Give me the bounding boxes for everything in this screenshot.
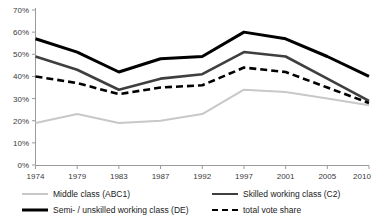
chart-legend: Middle class (ABC1) Skilled working clas… xyxy=(0,186,374,221)
series-line-skilled-c2 xyxy=(36,52,370,101)
legend-swatch-semi-unskilled-de xyxy=(22,206,48,214)
chart-canvas: 0%10%20%30%40%50%60%70% 1974197919831987… xyxy=(0,0,374,185)
legend-label-total-vote-share: total vote share xyxy=(243,206,301,215)
series-line-semi-unskilled-de xyxy=(36,32,370,76)
y-axis-tick-label: 60% xyxy=(13,28,29,37)
x-axis-tick-label: 1983 xyxy=(110,172,128,181)
x-axis-tick-label: 2005 xyxy=(318,172,336,181)
x-axis-tick-label: 1974 xyxy=(27,172,45,181)
legend-item-middle-class: Middle class (ABC1) xyxy=(22,190,212,199)
legend-item-total-vote-share: total vote share xyxy=(212,206,374,215)
x-axis-tick-labels: 197419791983198719921997200120052010 xyxy=(27,172,372,181)
legend-swatch-middle-class xyxy=(22,190,48,198)
x-axis-tick-label: 1997 xyxy=(235,172,253,181)
legend-item-semi-unskilled-de: Semi- / unskilled working class (DE) xyxy=(22,206,212,215)
y-axis-tick-label: 20% xyxy=(13,117,29,126)
x-axis-tick-label: 1992 xyxy=(193,172,211,181)
plot-area: 0%10%20%30%40%50%60%70% 1974197919831987… xyxy=(0,0,374,185)
y-axis-tick-marks xyxy=(32,10,36,165)
y-axis-tick-label: 10% xyxy=(13,139,29,148)
y-axis-tick-label: 0% xyxy=(17,161,29,170)
legend-label-middle-class: Middle class (ABC1) xyxy=(53,190,130,199)
y-axis-tick-label: 50% xyxy=(13,50,29,59)
line-chart: 0%10%20%30%40%50%60%70% 1974197919831987… xyxy=(0,0,374,221)
y-axis-tick-label: 40% xyxy=(13,72,29,81)
y-axis-tick-label: 70% xyxy=(13,6,29,15)
x-axis-tick-label: 1979 xyxy=(68,172,86,181)
series-line-middle-class xyxy=(36,90,370,123)
x-axis-tick-label: 1987 xyxy=(152,172,170,181)
x-axis-tick-label: 2010 xyxy=(353,172,371,181)
y-axis-tick-label: 30% xyxy=(13,95,29,104)
legend-swatch-total-vote-share xyxy=(212,206,238,214)
x-axis-tick-label: 2001 xyxy=(277,172,295,181)
legend-label-skilled-c2: Skilled working class (C2) xyxy=(243,190,340,199)
legend-item-skilled-c2: Skilled working class (C2) xyxy=(212,190,374,199)
legend-swatch-skilled-c2 xyxy=(212,190,238,198)
data-series-layer xyxy=(36,32,370,123)
y-axis-tick-labels: 0%10%20%30%40%50%60%70% xyxy=(13,6,29,170)
x-axis-tick-marks xyxy=(36,166,370,170)
legend-label-semi-unskilled-de: Semi- / unskilled working class (DE) xyxy=(53,206,189,215)
